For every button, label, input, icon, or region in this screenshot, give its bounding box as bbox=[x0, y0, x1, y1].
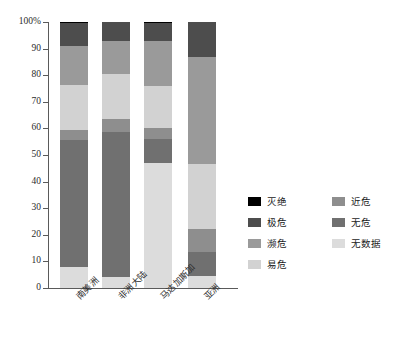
legend-label: 无危 bbox=[351, 218, 371, 228]
legend-swatch-icon bbox=[248, 260, 261, 269]
legend-swatch-icon bbox=[248, 239, 261, 248]
bar-segment[interactable] bbox=[102, 22, 130, 41]
bar-segment[interactable] bbox=[144, 86, 172, 129]
stacked-bar-chart: 0102030405060708090100% 南美洲非洲大陆马达加斯加亚洲 灭… bbox=[0, 0, 413, 344]
legend: 灭绝极危濒危易危 近危无危无数据 bbox=[248, 191, 406, 283]
bar-segment[interactable] bbox=[188, 164, 216, 229]
bar-segment[interactable] bbox=[102, 132, 130, 277]
bar-4[interactable] bbox=[188, 22, 216, 288]
legend-column-right: 近危无危无数据 bbox=[332, 191, 381, 254]
y-tick-label: 0 bbox=[0, 283, 41, 293]
bar-segment[interactable] bbox=[144, 22, 172, 23]
bar-segment[interactable] bbox=[144, 128, 172, 139]
plot-area bbox=[48, 22, 223, 288]
bar-segment[interactable] bbox=[60, 130, 88, 141]
legend-swatch-icon bbox=[332, 218, 345, 227]
y-tick-label: 90 bbox=[0, 44, 41, 54]
bar-2[interactable] bbox=[102, 22, 130, 288]
legend-label: 易危 bbox=[267, 260, 287, 270]
bar-segment[interactable] bbox=[188, 57, 216, 165]
legend-label: 灭绝 bbox=[267, 197, 287, 207]
y-tick-label: 10 bbox=[0, 256, 41, 266]
bar-segment[interactable] bbox=[144, 163, 172, 288]
bar-segment[interactable] bbox=[144, 23, 172, 40]
bar-segment[interactable] bbox=[102, 74, 130, 119]
legend-swatch-icon bbox=[332, 197, 345, 206]
y-tick-0 bbox=[43, 288, 48, 289]
y-tick-label: 50 bbox=[0, 150, 41, 160]
legend-item[interactable]: 近危 bbox=[332, 191, 381, 212]
legend-label: 近危 bbox=[351, 197, 371, 207]
legend-item[interactable]: 濒危 bbox=[248, 233, 287, 254]
bar-segment[interactable] bbox=[102, 119, 130, 132]
legend-swatch-icon bbox=[248, 197, 261, 206]
y-tick-label: 40 bbox=[0, 177, 41, 187]
y-tick-label: 20 bbox=[0, 230, 41, 240]
bar-segment[interactable] bbox=[60, 23, 88, 46]
bar-segment[interactable] bbox=[188, 229, 216, 252]
y-tick-label: 30 bbox=[0, 203, 41, 213]
bar-segment[interactable] bbox=[60, 22, 88, 23]
legend-swatch-icon bbox=[332, 239, 345, 248]
y-tick-label: 60 bbox=[0, 123, 41, 133]
y-tick-label: 100% bbox=[0, 17, 41, 27]
legend-label: 无数据 bbox=[351, 239, 381, 249]
bar-3[interactable] bbox=[144, 22, 172, 288]
bar-segment[interactable] bbox=[144, 139, 172, 163]
bar-segment[interactable] bbox=[60, 140, 88, 266]
bar-1[interactable] bbox=[60, 22, 88, 288]
legend-column-left: 灭绝极危濒危易危 bbox=[248, 191, 287, 275]
bar-segment[interactable] bbox=[60, 85, 88, 130]
bar-segment[interactable] bbox=[144, 41, 172, 86]
y-tick-label: 70 bbox=[0, 97, 41, 107]
legend-item[interactable]: 易危 bbox=[248, 254, 287, 275]
legend-item[interactable]: 无危 bbox=[332, 212, 381, 233]
y-tick-label: 80 bbox=[0, 70, 41, 80]
bar-segment[interactable] bbox=[60, 46, 88, 85]
bar-segment[interactable] bbox=[188, 22, 216, 57]
legend-label: 极危 bbox=[267, 218, 287, 228]
legend-item[interactable]: 灭绝 bbox=[248, 191, 287, 212]
legend-label: 濒危 bbox=[267, 239, 287, 249]
legend-item[interactable]: 无数据 bbox=[332, 233, 381, 254]
legend-swatch-icon bbox=[248, 218, 261, 227]
bar-segment[interactable] bbox=[102, 41, 130, 74]
legend-item[interactable]: 极危 bbox=[248, 212, 287, 233]
